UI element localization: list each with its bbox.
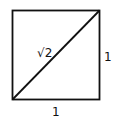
right-side-label: 1 <box>104 50 112 64</box>
diagonal-line <box>13 11 100 100</box>
square-diagram: √2 1 1 <box>0 0 116 119</box>
bottom-side-label: 1 <box>52 105 60 119</box>
diagonal-label: √2 <box>37 46 52 60</box>
